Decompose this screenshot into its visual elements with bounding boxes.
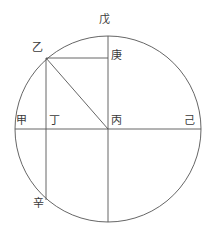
point-label-yi: 乙: [32, 42, 43, 53]
point-label-ding: 丁: [49, 115, 60, 126]
point-label-jia: 甲: [16, 115, 27, 126]
point-label-ji: 己: [184, 115, 195, 126]
point-label-xin: 辛: [33, 198, 44, 209]
point-label-geng: 庚: [111, 50, 122, 61]
point-label-wu: 戊: [99, 14, 110, 25]
point-label-bing: 丙: [111, 115, 122, 126]
figure-canvas: 戊 乙 庚 甲 丁 丙 己 辛: [0, 0, 214, 242]
